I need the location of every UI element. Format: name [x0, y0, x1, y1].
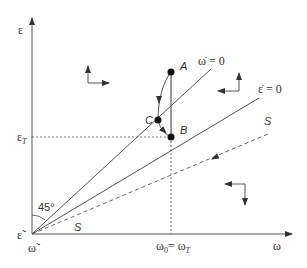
eps-dot-zero-label: ε̇ = 0	[258, 82, 282, 96]
eps-T-label: εT	[17, 130, 27, 146]
omega-dot-zero-label: ω̇ = 0	[198, 54, 225, 68]
omega-0-label: ω0= ωT	[156, 239, 191, 255]
point-A-label: A	[179, 60, 187, 72]
direction-arrows-upper-left	[88, 66, 109, 83]
x-axis-label: ω	[273, 239, 281, 253]
y-axis-label: ε	[18, 23, 23, 37]
direction-arrows-lower-right	[225, 184, 245, 205]
phase-diagram: ε ω ε̃ ω̃ εT ω0= ωT ω̇ = 0 ε̇ = 0 S S 45…	[0, 0, 307, 268]
point-C-label: C	[145, 114, 153, 126]
direction-arrows-upper-right	[218, 73, 239, 91]
angle-arc	[32, 215, 45, 220]
point-C	[155, 117, 162, 124]
point-B-label: B	[180, 124, 187, 136]
angle-label: 45°	[38, 201, 55, 213]
origin-eps-label: ε̃	[17, 228, 26, 242]
point-B	[168, 134, 175, 141]
saddle-path-label-lower: S	[74, 221, 82, 233]
omega-dot-zero-line	[32, 69, 211, 234]
origin-omega-label: ω̃	[28, 241, 40, 255]
trajectory-A-C	[158, 72, 171, 120]
saddle-path-label-upper: S	[264, 115, 272, 127]
point-A	[168, 69, 175, 76]
